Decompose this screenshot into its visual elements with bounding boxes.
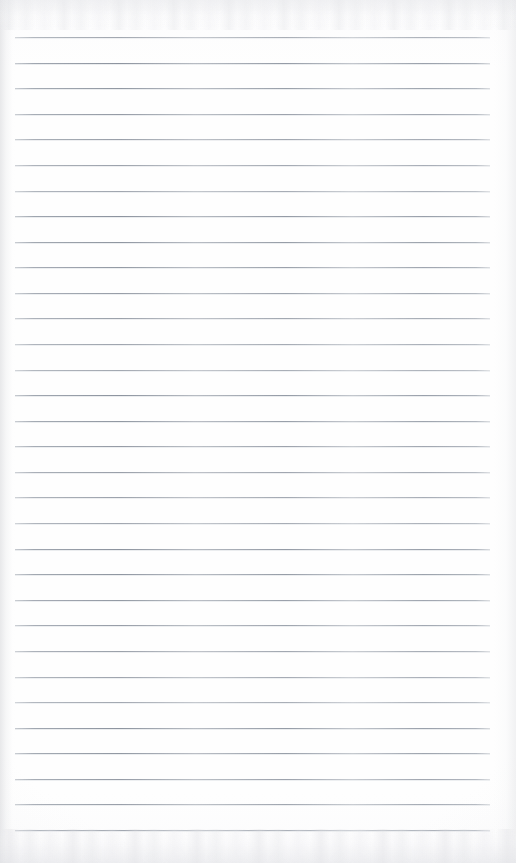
ruled-line (15, 549, 490, 550)
ruled-line (15, 574, 490, 575)
ruled-line (15, 625, 490, 626)
ruled-line (15, 753, 490, 754)
ruled-line (15, 472, 490, 473)
ruled-line (15, 677, 490, 678)
ruled-line (15, 344, 490, 345)
ruled-line (15, 37, 490, 38)
ruled-line (15, 523, 490, 524)
ruled-line (15, 242, 490, 243)
ruled-line (15, 497, 490, 498)
ruled-line (15, 702, 490, 703)
ruled-line-layer (0, 0, 516, 863)
ruled-line (15, 165, 490, 166)
ruled-line (15, 139, 490, 140)
ruled-line (15, 370, 490, 371)
ruled-line (15, 421, 490, 422)
ruled-line (15, 830, 490, 831)
ruled-line (15, 63, 490, 64)
ruled-line (15, 395, 490, 396)
ruled-line (15, 114, 490, 115)
ruled-line (15, 267, 490, 268)
ruled-line (15, 728, 490, 729)
ruled-line (15, 804, 490, 805)
ruled-line (15, 318, 490, 319)
ruled-line (15, 779, 490, 780)
ruled-line (15, 651, 490, 652)
ruled-line (15, 191, 490, 192)
ruled-line (15, 600, 490, 601)
ruled-line (15, 446, 490, 447)
ruled-line (15, 88, 490, 89)
ruled-line (15, 216, 490, 217)
ruled-line (15, 293, 490, 294)
scanned-page (0, 0, 516, 863)
